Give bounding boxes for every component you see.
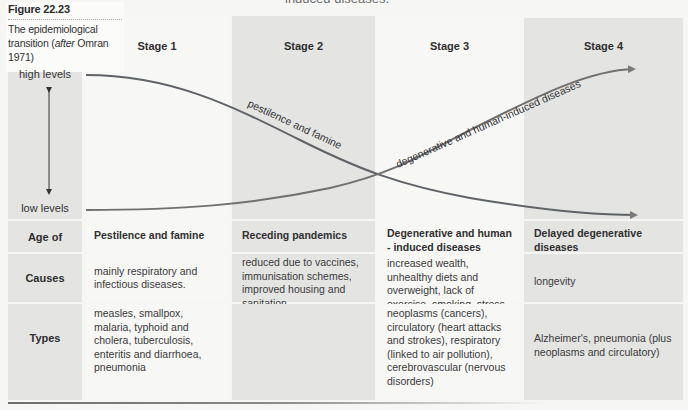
causes-stage-1: mainly respiratory and infectious diseas… <box>84 254 230 302</box>
row-label-age-of: Age of <box>8 221 82 252</box>
bottom-divider <box>8 402 548 404</box>
row-label-causes: Causes <box>8 254 82 302</box>
types-stage-2 <box>232 304 375 400</box>
degenerative-curve-label: degenerative and human-induced diseases <box>394 77 582 170</box>
age-of-stage-2: Receding pandemics <box>232 221 375 252</box>
row-label-types: Types <box>8 304 82 400</box>
types-stage-1: measles, smallpox, malaria, typhoid and … <box>84 304 230 400</box>
pestilence-curve-label: pestilence and famine <box>246 97 344 151</box>
age-of-stage-1: Pestilence and famine <box>84 221 230 252</box>
causes-stage-4: longevity <box>524 254 683 302</box>
age-of-stage-3: Degenerative and human - induced disease… <box>377 221 522 252</box>
types-stage-3: neoplasms (cancers), circulatory (heart … <box>377 304 522 400</box>
causes-stage-3: increased wealth, unhealthy diets and ov… <box>377 254 522 302</box>
transition-chart: pestilence and famine degenerative and h… <box>0 0 688 220</box>
types-stage-4: Alzheimer's, pneumonia (plus neoplasms a… <box>524 304 683 400</box>
age-of-stage-4: Delayed degenerative diseases <box>524 221 683 252</box>
causes-stage-2: reduced due to vaccines, immunisation sc… <box>232 254 375 302</box>
